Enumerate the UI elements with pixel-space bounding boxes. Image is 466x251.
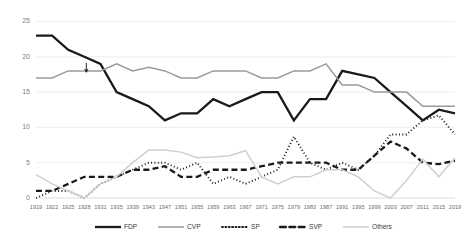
x-tick-1979: 1979: [288, 204, 300, 210]
x-tick-1928: 1928: [78, 204, 90, 210]
x-tick-1943: 1943: [143, 204, 155, 210]
x-tick-1971: 1971: [255, 204, 267, 210]
x-tick-1935: 1935: [110, 204, 122, 210]
y-tick-20: 20: [22, 53, 30, 60]
x-tick-1922: 1922: [46, 204, 58, 210]
x-tick-1919: 1919: [30, 204, 42, 210]
legend-item-sp[interactable]: SP: [222, 223, 260, 230]
legend-label-fdp: FDP: [124, 223, 138, 230]
y-axis-tick-labels: 0510152025: [22, 17, 30, 201]
x-tick-1995: 1995: [352, 204, 364, 210]
gridlines: [36, 22, 455, 199]
x-tick-1955: 1955: [191, 204, 203, 210]
x-tick-1951: 1951: [175, 204, 187, 210]
x-tick-2003: 2003: [384, 204, 396, 210]
x-axis-tick-labels: 1919192219251928193119351939194319471951…: [30, 204, 461, 210]
x-tick-1991: 1991: [336, 204, 348, 210]
x-tick-1959: 1959: [207, 204, 219, 210]
x-tick-1963: 1963: [223, 204, 235, 210]
legend-label-svp: SVP: [309, 223, 323, 230]
series-line-fdp: [36, 36, 455, 121]
line-chart: 0510152025 19191922192519281931193519391…: [0, 0, 466, 251]
y-tick-0: 0: [26, 194, 30, 201]
chart-container: 0510152025 19191922192519281931193519391…: [0, 0, 466, 251]
legend-item-fdp[interactable]: FDP: [95, 223, 138, 230]
data-series-group: [36, 36, 455, 198]
x-tick-1939: 1939: [126, 204, 138, 210]
x-tick-2011: 2011: [417, 204, 429, 210]
legend-label-cvp: CVP: [187, 223, 201, 230]
annotation-group: [85, 63, 88, 72]
x-tick-2019: 2019: [449, 204, 461, 210]
legend-item-svp[interactable]: SVP: [280, 223, 323, 230]
legend-label-sp: SP: [251, 223, 260, 230]
y-tick-25: 25: [22, 17, 30, 24]
x-tick-1947: 1947: [159, 204, 171, 210]
x-tick-2007: 2007: [400, 204, 412, 210]
y-tick-15: 15: [22, 88, 30, 95]
y-tick-5: 5: [26, 159, 30, 166]
series-line-others: [36, 150, 455, 198]
y-tick-10: 10: [22, 123, 30, 130]
legend-item-cvp[interactable]: CVP: [158, 223, 201, 230]
legend-label-others: Others: [372, 223, 392, 230]
x-tick-1967: 1967: [239, 204, 251, 210]
x-tick-2015: 2015: [433, 204, 445, 210]
x-tick-1987: 1987: [320, 204, 332, 210]
x-tick-1925: 1925: [62, 204, 74, 210]
chart-legend: FDPCVPSPSVPOthers: [95, 223, 392, 230]
x-tick-1931: 1931: [94, 204, 106, 210]
x-tick-1983: 1983: [304, 204, 316, 210]
legend-item-others[interactable]: Others: [343, 223, 392, 230]
series-line-svp: [36, 142, 455, 191]
x-tick-1975: 1975: [272, 204, 284, 210]
x-tick-1999: 1999: [368, 204, 380, 210]
